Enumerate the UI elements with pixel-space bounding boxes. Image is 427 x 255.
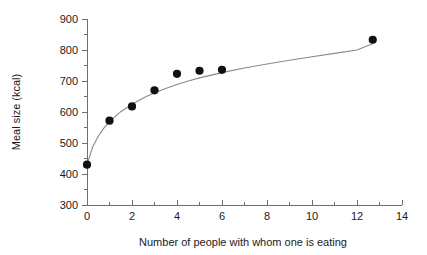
y-tick-label: 500 [60, 137, 78, 149]
x-tick-label: 4 [174, 210, 180, 222]
data-point [173, 70, 181, 78]
scatter-plot-svg: 02468101214300400500600700800900 Number … [0, 0, 427, 255]
y-tick-label: 400 [60, 168, 78, 180]
y-tick-label: 900 [60, 13, 78, 25]
data-point [218, 66, 226, 74]
chart-figure: 02468101214300400500600700800900 Number … [0, 0, 427, 255]
data-point [150, 86, 158, 94]
y-tick-label: 600 [60, 106, 78, 118]
data-point [195, 67, 203, 75]
x-tick-label: 8 [264, 210, 270, 222]
x-tick-label: 10 [306, 210, 318, 222]
x-tick-label: 12 [351, 210, 363, 222]
x-tick-label: 0 [84, 210, 90, 222]
x-tick-label: 14 [396, 210, 408, 222]
data-point [128, 102, 136, 110]
x-axis-title: Number of people with whom one is eating [139, 236, 347, 248]
y-tick-label: 800 [60, 44, 78, 56]
data-point [83, 161, 91, 169]
x-tick-label: 2 [129, 210, 135, 222]
y-axis-title: Meal size (kcal) [10, 74, 22, 150]
x-tick-label: 6 [219, 210, 225, 222]
y-tick-label: 300 [60, 199, 78, 211]
y-tick-label: 700 [60, 75, 78, 87]
data-point [369, 36, 377, 44]
data-point [105, 117, 113, 125]
